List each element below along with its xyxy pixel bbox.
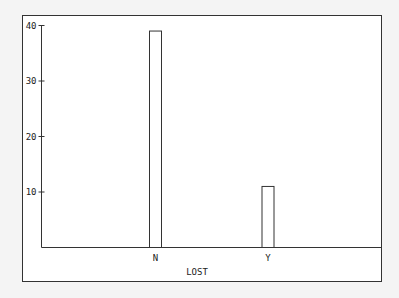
x-tick-label: Y <box>265 253 271 263</box>
y-tick-label: 40 <box>26 21 37 31</box>
y-tick-label: 20 <box>26 132 37 142</box>
x-tick-label: N <box>153 253 158 263</box>
bar-chart: 10203040 NY LOST <box>0 0 399 298</box>
bar-n <box>150 31 162 247</box>
x-axis-label: LOST <box>186 267 208 277</box>
y-tick-label: 30 <box>26 76 37 86</box>
chart-frame <box>23 16 382 282</box>
y-tick-label: 10 <box>26 187 37 197</box>
bar-y <box>262 186 274 247</box>
